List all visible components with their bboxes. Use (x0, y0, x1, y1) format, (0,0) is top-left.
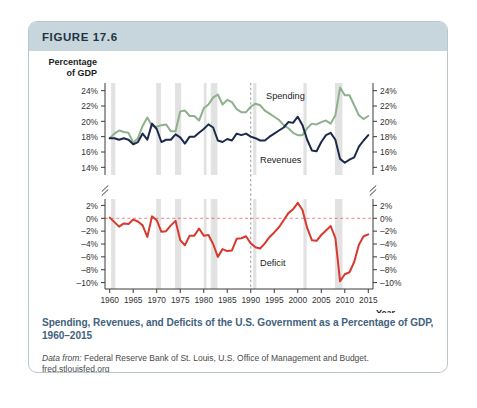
x-axis-label: 2010 (335, 295, 354, 305)
annotation-deficit: Deficit (260, 258, 286, 268)
figure-header: FIGURE 17.6 (29, 22, 447, 51)
source-url: fred.stlouisfed.org (42, 364, 438, 373)
y-axis-label-right: –2% (380, 226, 397, 236)
y-axis-label: –10% (77, 278, 99, 288)
caption-block: Spending, Revenues, and Deficits of the … (42, 316, 438, 373)
chart-svg: 14%14%16%16%18%18%20%20%22%22%24%24%2%2%… (29, 51, 447, 313)
x-axis-label: 1960 (100, 295, 119, 305)
y-axis-label-right: 14% (380, 163, 397, 173)
y-axis-label: 18% (81, 132, 98, 142)
y-axis-label-right: –6% (380, 252, 397, 262)
y-axis-label: 24% (81, 86, 98, 96)
y-axis-label: –6% (81, 252, 98, 262)
x-axis-label: 1995 (265, 295, 284, 305)
y-axis-label: 20% (81, 117, 98, 127)
x-axis-label: 2000 (288, 295, 307, 305)
y-axis-title-line1: Percentage (48, 57, 97, 67)
y-axis-label-right: –10% (380, 278, 402, 288)
source-text: Federal Reserve Bank of St. Louis, U.S. … (82, 353, 369, 363)
x-axis-label: 2015 (359, 295, 378, 305)
series-line-deficit (110, 203, 369, 281)
x-axis-title: Year (376, 308, 396, 313)
y-axis-label: –8% (81, 265, 98, 275)
annotation-revenues: Revenues (260, 155, 302, 165)
y-axis-label-right: –8% (380, 265, 397, 275)
x-axis-label: 1965 (124, 295, 143, 305)
x-axis-label: 1980 (194, 295, 213, 305)
figure-number-label: FIGURE 17.6 (42, 31, 118, 43)
annotation-spending: Spending (266, 91, 305, 101)
x-axis-label: 1970 (147, 295, 166, 305)
chart-plot-area: 14%14%16%16%18%18%20%20%22%22%24%24%2%2%… (29, 51, 447, 313)
recession-band (156, 199, 161, 289)
source-lead-label: Data from: (42, 353, 82, 363)
x-axis-label: 1975 (171, 295, 190, 305)
recession-band (175, 199, 181, 289)
recession-band (111, 83, 115, 175)
y-axis-title-line2: of GDP (67, 68, 98, 78)
y-axis-label: –2% (81, 226, 98, 236)
y-axis-label-right: 18% (380, 132, 397, 142)
x-axis-label: 1990 (241, 295, 260, 305)
x-axis-label: 2005 (312, 295, 331, 305)
y-axis-label: 0% (86, 214, 99, 224)
y-axis-label-right: 22% (380, 101, 397, 111)
y-axis-label-right: 20% (380, 117, 397, 127)
figure-caption: Spending, Revenues, and Deficits of the … (42, 316, 438, 343)
recession-band (111, 199, 115, 289)
recession-band (253, 83, 256, 175)
y-axis-label: 22% (81, 101, 98, 111)
y-axis-label-right: 0% (380, 214, 393, 224)
recession-band (204, 199, 207, 289)
y-axis-label-right: 24% (380, 86, 397, 96)
y-axis-label: –4% (81, 239, 98, 249)
y-axis-label-right: –4% (380, 239, 397, 249)
figure-source: Data from: Federal Reserve Bank of St. L… (42, 353, 438, 373)
y-axis-label-right: 16% (380, 147, 397, 157)
y-axis-label: 14% (81, 163, 98, 173)
recession-band (253, 199, 256, 289)
figure-card: FIGURE 17.6 14%14%16%16%18%18%20%20%22%2… (28, 21, 448, 373)
x-axis-label: 1985 (218, 295, 237, 305)
y-axis-label: 2% (86, 201, 99, 211)
y-axis-label: 16% (81, 147, 98, 157)
y-axis-label-right: 2% (380, 201, 393, 211)
